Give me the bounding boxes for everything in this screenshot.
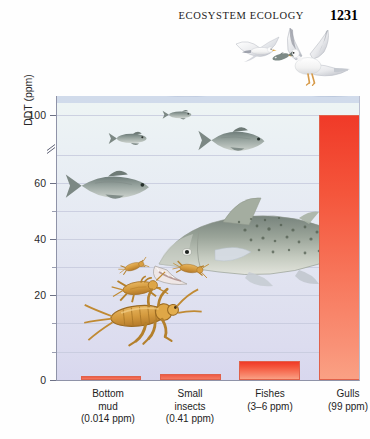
- bar-gulls[interactable]: [319, 115, 360, 380]
- bar-gulls-fill: [320, 116, 360, 379]
- gull-front: [272, 28, 350, 85]
- y-tick-label-40: 40: [34, 233, 46, 245]
- biomagnification-figure: 100 60 40 20 0 DDT (ppm): [0, 0, 370, 439]
- plot-area: [56, 96, 360, 381]
- bar-small-insects[interactable]: [160, 374, 221, 380]
- bar-fishes[interactable]: [239, 361, 300, 380]
- gulls-illustration: [232, 26, 360, 98]
- y-tick-label-0: 0: [40, 374, 46, 386]
- x-label-gulls-line1: Gulls: [300, 388, 370, 401]
- x-label-gulls-line2: (99 ppm): [300, 401, 370, 414]
- y-axis-title-text: DDT (ppm): [22, 74, 34, 126]
- x-axis-labels: Bottom mud (0.014 ppm) Small insects (0.…: [56, 388, 360, 436]
- y-tick-label-20: 20: [34, 289, 46, 301]
- bar-fishes-fill: [240, 362, 299, 379]
- bar-bottom-mud-fill: [82, 377, 140, 379]
- bar-small-insects-fill: [161, 375, 220, 379]
- bar-bottom-mud[interactable]: [81, 376, 141, 380]
- insect-nymph-small-1: [117, 257, 149, 276]
- y-axis-title: DDT (ppm): [2, 94, 16, 106]
- y-tick-label-60: 60: [34, 177, 46, 189]
- insect-nymph-large: [81, 285, 204, 350]
- insect-nymph-small-2: [172, 259, 209, 278]
- x-label-small-insects-line3: (0.41 ppm): [142, 413, 238, 426]
- y-axis: 100 60 40 20 0: [0, 96, 56, 386]
- x-label-gulls: Gulls (99 ppm): [300, 388, 370, 413]
- insect-illustrations: [57, 96, 360, 381]
